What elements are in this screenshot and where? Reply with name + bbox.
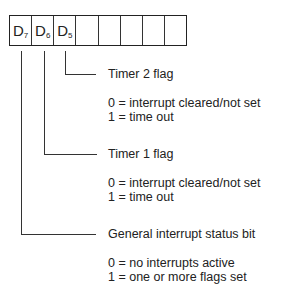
- timer2-flag-title: Timer 2 flag: [108, 67, 174, 81]
- timer2-flag-value-0: 0 = interrupt cleared/not set: [108, 96, 261, 110]
- register-cell-d4: [76, 16, 98, 45]
- timer2-flag-value-1: 1 = time out: [108, 110, 174, 124]
- register-cell-d0: [165, 16, 186, 45]
- timer1-flag-title: Timer 1 flag: [108, 147, 174, 161]
- d5-leader-vertical: [65, 51, 66, 75]
- timer1-flag-value-0: 0 = interrupt cleared/not set: [108, 176, 261, 190]
- general-interrupt-value-0: 0 = no interrupts active: [108, 256, 235, 270]
- cell-label: D: [35, 22, 46, 39]
- cell-subscript: 7: [24, 31, 28, 40]
- d5-leader-horizontal: [65, 74, 96, 75]
- register-box: D7 D6 D5: [9, 15, 187, 46]
- register-cell-d6: D6: [32, 16, 54, 45]
- d7-leader-horizontal: [21, 234, 96, 235]
- cell-label: D: [57, 22, 68, 39]
- timer1-flag-value-1: 1 = time out: [108, 190, 174, 204]
- d6-leader-vertical: [44, 51, 45, 155]
- cell-subscript: 6: [46, 31, 50, 40]
- general-interrupt-value-1: 1 = one or more flags set: [108, 270, 247, 284]
- register-cell-d7: D7: [10, 16, 32, 45]
- register-cell-d3: [99, 16, 121, 45]
- register-cell-d1: [143, 16, 165, 45]
- d7-leader-vertical: [21, 51, 22, 235]
- cell-label: D: [13, 22, 24, 39]
- general-interrupt-title: General interrupt status bit: [108, 227, 255, 241]
- cell-subscript: 5: [68, 31, 72, 40]
- register-cell-d2: [121, 16, 143, 45]
- d6-leader-horizontal: [44, 154, 97, 155]
- register-cell-d5: D5: [54, 16, 76, 45]
